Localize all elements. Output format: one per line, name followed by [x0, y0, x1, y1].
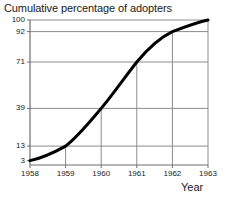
- x-tick-label-1963: 1963: [193, 170, 223, 178]
- y-tick-label-71: 71: [1, 58, 25, 66]
- x-axis-title: Year: [181, 181, 203, 193]
- x-tick-label-1961: 1961: [122, 170, 152, 178]
- adoption-curve: [30, 20, 208, 161]
- y-tick-label-100: 100: [1, 16, 25, 24]
- y-tick-label-39: 39: [1, 104, 25, 112]
- gridlines-vertical-droplines: [66, 32, 173, 165]
- y-tick-label-3: 3: [1, 157, 25, 165]
- chart-container: Cumulative percentage of adopters: [0, 0, 226, 201]
- y-tick-label-92: 92: [1, 28, 25, 36]
- x-tick-label-1960: 1960: [86, 170, 116, 178]
- axis-lines: [30, 20, 208, 165]
- y-tick-label-13: 13: [1, 142, 25, 150]
- x-tick-label-1959: 1959: [51, 170, 81, 178]
- x-tick-label-1962: 1962: [157, 170, 187, 178]
- x-tick-label-1958: 1958: [15, 170, 45, 178]
- caption-fragment: [4, 194, 220, 200]
